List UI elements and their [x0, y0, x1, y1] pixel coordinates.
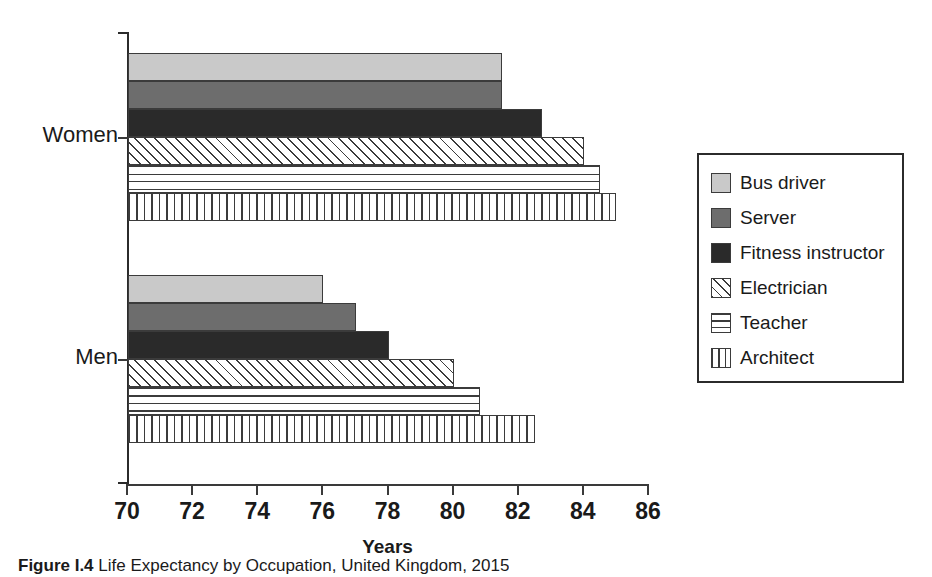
- legend-swatch-icon: [711, 348, 731, 368]
- bar-bus-driver-men: [128, 275, 323, 303]
- y-axis-category-label-men: Men: [0, 344, 118, 370]
- legend-item-label: Teacher: [740, 312, 808, 334]
- bar-electrician-men: [128, 359, 454, 387]
- legend-item-label: Electrician: [740, 277, 828, 299]
- legend-item-label: Server: [740, 207, 796, 229]
- x-axis-tick-label: 74: [244, 498, 270, 525]
- y-axis-category-tick: [118, 359, 128, 361]
- legend-item-architect[interactable]: Architect: [711, 340, 902, 375]
- x-axis-tick: [256, 484, 258, 495]
- x-axis-tick: [452, 484, 454, 495]
- bar-architect-women: [128, 193, 616, 221]
- x-axis-tick-label: 84: [570, 498, 596, 525]
- y-axis-category-label-wrap: Women: [0, 122, 118, 148]
- bar-fitness-instructor-women: [128, 109, 542, 137]
- x-axis-tick-label: 76: [310, 498, 336, 525]
- legend-item-label: Bus driver: [740, 172, 826, 194]
- x-axis-tick: [387, 484, 389, 495]
- x-axis-tick: [647, 484, 649, 495]
- x-axis-tick: [191, 484, 193, 495]
- chart-plot-area: 707274767880828486 Years: [127, 32, 648, 484]
- chart-legend: Bus driverServerFitness instructorElectr…: [697, 153, 904, 383]
- x-axis-tick-label: 82: [505, 498, 531, 525]
- bar-fitness-instructor-men: [128, 331, 389, 359]
- x-axis-tick-label: 72: [179, 498, 205, 525]
- legend-swatch-icon: [711, 243, 731, 263]
- x-axis-tick-label: 78: [375, 498, 401, 525]
- x-axis-tick-label: 70: [114, 498, 140, 525]
- bar-server-men: [128, 303, 356, 331]
- y-axis-top-cap: [118, 32, 128, 34]
- bar-teacher-men: [128, 387, 480, 415]
- legend-item-server[interactable]: Server: [711, 200, 902, 235]
- legend-item-electrician[interactable]: Electrician: [711, 270, 902, 305]
- x-axis-tick: [126, 484, 128, 495]
- y-axis-category-label-wrap: Men: [0, 344, 118, 370]
- figure-container: 707274767880828486 Years WomenMen Bus dr…: [0, 0, 932, 577]
- y-axis-category-label-women: Women: [0, 122, 118, 148]
- legend-item-bus-driver[interactable]: Bus driver: [711, 165, 902, 200]
- x-axis-tick-label: 80: [440, 498, 466, 525]
- x-axis-tick: [321, 484, 323, 495]
- bar-electrician-women: [128, 137, 584, 165]
- figure-caption: Figure I.4 Life Expectancy by Occupation…: [18, 556, 509, 576]
- bar-teacher-women: [128, 165, 600, 193]
- legend-item-label: Architect: [740, 347, 814, 369]
- legend-swatch-icon: [711, 173, 731, 193]
- legend-item-label: Fitness instructor: [740, 242, 885, 264]
- figure-caption-text: Life Expectancy by Occupation, United Ki…: [98, 556, 509, 575]
- bar-server-women: [128, 81, 502, 109]
- legend-item-fitness-instructor[interactable]: Fitness instructor: [711, 235, 902, 270]
- y-axis-category-tick: [118, 137, 128, 139]
- x-axis-title: Years: [127, 536, 648, 558]
- legend-swatch-icon: [711, 278, 731, 298]
- bar-architect-men: [128, 415, 535, 443]
- legend-item-teacher[interactable]: Teacher: [711, 305, 902, 340]
- x-axis-tick-label: 86: [635, 498, 661, 525]
- legend-swatch-icon: [711, 208, 731, 228]
- x-axis-tick: [582, 484, 584, 495]
- figure-caption-label: Figure I.4: [18, 556, 94, 575]
- x-axis-tick: [517, 484, 519, 495]
- legend-swatch-icon: [711, 313, 731, 333]
- bar-bus-driver-women: [128, 53, 502, 81]
